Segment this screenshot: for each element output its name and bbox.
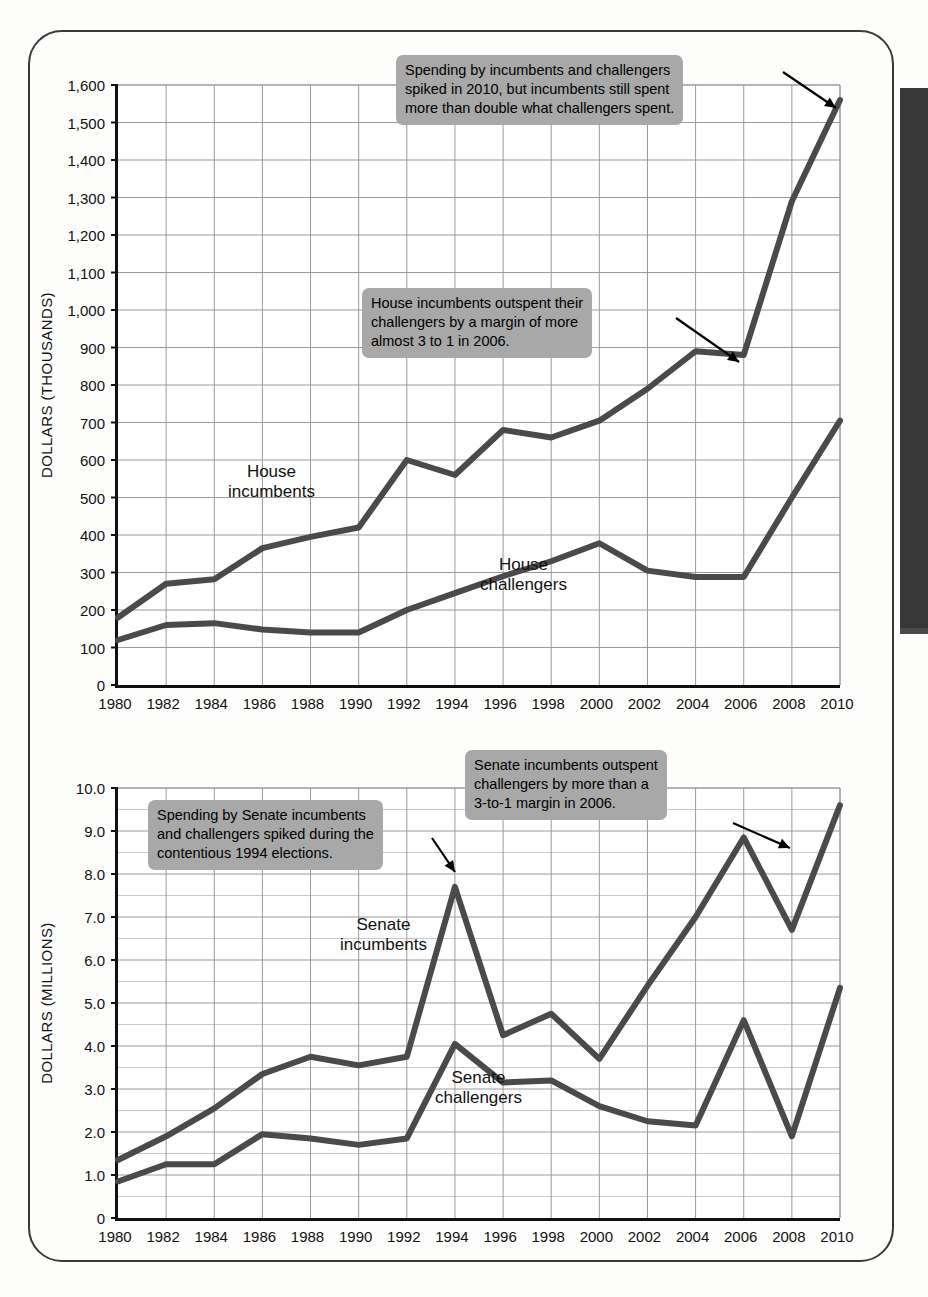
- callout-house-2010: Spending by incumbents and challengers s…: [396, 55, 683, 125]
- senate-x-tick-label: 2010: [820, 1228, 853, 1245]
- senate-incumbents-series-label: Senate incumbents: [340, 915, 427, 955]
- callout-senate-2006: Senate incumbents outspent challengers b…: [465, 750, 667, 820]
- senate-x-tick-label: 1984: [195, 1228, 228, 1245]
- callout-senate-1994: Spending by Senate incumbents and challe…: [148, 800, 383, 870]
- senate-x-tick-label: 1986: [243, 1228, 276, 1245]
- senate-y-tick-label: 2.0: [0, 1124, 105, 1141]
- senate-y-tick-label: 10.0: [0, 780, 105, 797]
- senate-y-tick-label: 9.0: [0, 823, 105, 840]
- senate-spending-chart: DOLLARS (MILLIONS) Senate incumbents Sen…: [0, 0, 928, 1297]
- senate-x-tick-label: 2006: [724, 1228, 757, 1245]
- senate-x-tick-label: 2004: [676, 1228, 709, 1245]
- callout-house-2006-line1: House incumbents outspent their: [371, 294, 583, 313]
- callout-senate-1994-line2: and challengers spiked during the: [157, 825, 374, 844]
- senate-x-tick-label: 2002: [628, 1228, 661, 1245]
- callout-senate-2006-line2: challengers by more than a: [474, 775, 658, 794]
- page-canvas: DOLLARS (THOUSANDS) House incumbents Hou…: [0, 0, 928, 1297]
- senate-y-tick-label: 1.0: [0, 1167, 105, 1184]
- callout-house-2010-line1: Spending by incumbents and challengers: [405, 61, 674, 80]
- senate-incumbents-label-line1: Senate: [357, 915, 411, 934]
- senate-x-tick-label: 1996: [483, 1228, 516, 1245]
- callout-house-2010-line3: more than double what challengers spent.: [405, 99, 674, 118]
- senate-y-tick-label: 6.0: [0, 952, 105, 969]
- senate-y-tick-label: 3.0: [0, 1081, 105, 1098]
- senate-y-tick-label: 0: [0, 1210, 105, 1227]
- callout-senate-2006-line1: Senate incumbents outspent: [474, 756, 658, 775]
- callout-senate-1994-line1: Spending by Senate incumbents: [157, 806, 374, 825]
- senate-x-tick-label: 2008: [772, 1228, 805, 1245]
- senate-x-tick-label: 1982: [146, 1228, 179, 1245]
- senate-y-tick-label: 4.0: [0, 1038, 105, 1055]
- senate-x-tick-label: 2000: [580, 1228, 613, 1245]
- callout-house-2006-line3: almost 3 to 1 in 2006.: [371, 332, 583, 351]
- senate-challengers-label-line2: challengers: [435, 1088, 522, 1107]
- senate-y-tick-label: 7.0: [0, 909, 105, 926]
- callout-house-2006-line2: challengers by a margin of more: [371, 313, 583, 332]
- senate-x-tick-label: 1980: [98, 1228, 131, 1245]
- senate-challengers-label-line1: Senate: [452, 1068, 506, 1087]
- callout-house-2006: House incumbents outspent their challeng…: [362, 288, 592, 358]
- callout-house-2010-line2: spiked in 2010, but incumbents still spe…: [405, 80, 674, 99]
- senate-x-tick-label: 1994: [435, 1228, 468, 1245]
- senate-x-tick-label: 1992: [387, 1228, 420, 1245]
- callout-senate-1994-line3: contentious 1994 elections.: [157, 844, 374, 863]
- senate-x-tick-label: 1990: [339, 1228, 372, 1245]
- senate-x-tick-label: 1988: [291, 1228, 324, 1245]
- senate-challengers-series-label: Senate challengers: [435, 1068, 522, 1108]
- senate-x-tick-label: 1998: [532, 1228, 565, 1245]
- senate-y-tick-label: 5.0: [0, 995, 105, 1012]
- senate-incumbents-label-line2: incumbents: [340, 935, 427, 954]
- callout-senate-2006-line3: 3-to-1 margin in 2006.: [474, 794, 658, 813]
- senate-y-tick-label: 8.0: [0, 866, 105, 883]
